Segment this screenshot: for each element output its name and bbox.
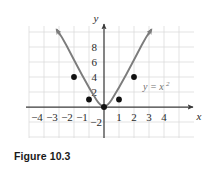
point-2-4 [131, 74, 137, 80]
point-0-0 [101, 104, 107, 110]
x-tick-1: 1 [116, 111, 122, 123]
curve-equation-label: y = x 2 [142, 80, 170, 93]
x-tick--4: −4 [31, 111, 43, 123]
curve-equation-base: y = x [142, 81, 164, 92]
figure-caption: Figure 10.3 [14, 150, 71, 162]
y-tick-8: 8 [92, 41, 98, 53]
coordinate-plane: y x −4 −3 −2 −1 1 2 3 4 8 6 4 2 −2 [0, 0, 210, 146]
graph-svg: y x −4 −3 −2 −1 1 2 3 4 8 6 4 2 −2 [0, 0, 210, 146]
figure-container: y x −4 −3 −2 −1 1 2 3 4 8 6 4 2 −2 [0, 0, 210, 172]
x-axis-label: x [196, 110, 202, 122]
x-tick--3: −3 [46, 111, 58, 123]
x-tick--1: −1 [76, 111, 88, 123]
point--1-1 [86, 97, 92, 103]
curve-equation-exponent: 2 [166, 80, 170, 88]
y-tick--2: −2 [90, 116, 102, 128]
point--2-4 [71, 74, 77, 80]
y-tick-labels: 8 6 4 2 −2 [90, 41, 102, 128]
x-tick-3: 3 [146, 111, 152, 123]
y-axis-label: y [93, 12, 99, 24]
x-tick-4: 4 [161, 111, 167, 123]
y-tick-6: 6 [92, 56, 98, 68]
y-tick-4: 4 [92, 71, 98, 83]
x-tick--2: −2 [61, 111, 73, 123]
x-tick-2: 2 [131, 111, 137, 123]
point-1-1 [116, 97, 122, 103]
